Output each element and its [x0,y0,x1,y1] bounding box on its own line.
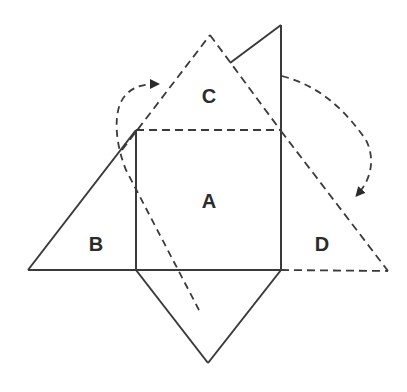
label-d: D [315,233,329,255]
fold-arrow-right [282,76,371,194]
label-c: C [202,85,216,107]
triangle-d [281,131,388,271]
fold-arrow-left [117,84,199,310]
square-a [28,130,281,270]
pyramid-net-diagram: A B C D [0,0,407,392]
triangle-b [28,130,136,270]
triangle-bottom [136,270,281,363]
label-a: A [202,190,216,212]
folded-triangle-top-right [230,25,281,130]
label-b: B [89,233,103,255]
